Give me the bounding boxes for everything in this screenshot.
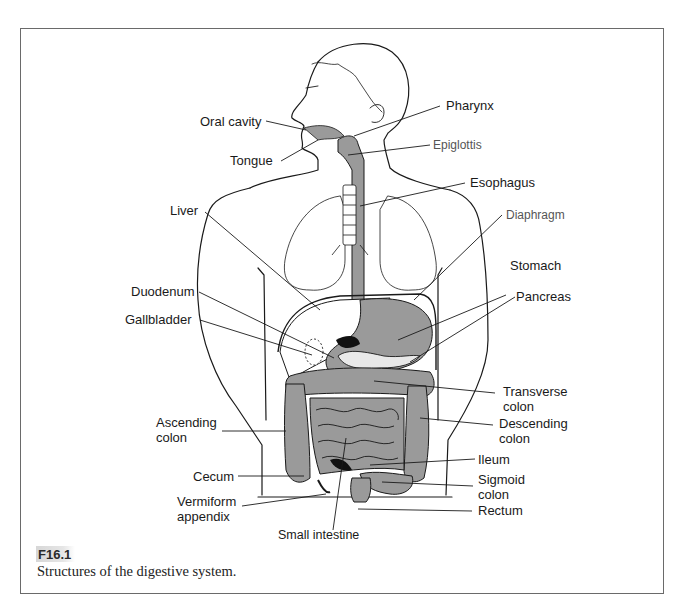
- label-pancreas: Pancreas: [516, 289, 571, 304]
- label-ileum: Ileum: [478, 452, 510, 467]
- label-epiglottis: Epiglottis: [433, 138, 482, 153]
- head-outline: [318, 44, 450, 190]
- torso-right: [446, 190, 488, 495]
- label-diaphragm: Diaphragm: [506, 208, 565, 223]
- label-oral-cavity: Oral cavity: [200, 114, 261, 129]
- label-rectum: Rectum: [478, 503, 523, 518]
- appendix: [318, 480, 330, 492]
- label-ascending-colon: Ascending colon: [156, 415, 217, 445]
- label-vermiform-appendix-text: Vermiform appendix: [177, 494, 236, 524]
- label-sigmoid-colon: Sigmoid colon: [478, 472, 525, 502]
- figure-number: F16.1: [36, 546, 75, 562]
- lung-right: [380, 196, 436, 290]
- label-esophagus: Esophagus: [470, 175, 535, 190]
- label-small-intestine: Small intestine: [278, 528, 359, 543]
- torso-left: [197, 188, 262, 495]
- label-pharynx: Pharynx: [446, 98, 494, 113]
- ascending-colon: [285, 384, 311, 482]
- label-vermiform-appendix: Vermiform appendix: [177, 494, 236, 524]
- label-duodenum: Duodenum: [131, 284, 195, 299]
- label-descending-colon-text: Descending colon: [499, 416, 568, 446]
- label-descending-colon: Descending colon: [499, 416, 568, 446]
- label-transverse-colon-text: Transverse colon: [503, 384, 568, 414]
- label-cecum: Cecum: [193, 469, 234, 484]
- label-tongue: Tongue: [230, 153, 273, 168]
- rectum: [351, 478, 371, 502]
- label-transverse-colon: Transverse colon: [503, 384, 568, 414]
- label-ascending-colon-text: Ascending colon: [156, 415, 217, 445]
- oral-cavity: [304, 126, 344, 140]
- descending-colon: [404, 386, 429, 482]
- label-sigmoid-colon-text: Sigmoid colon: [478, 472, 525, 502]
- figure-caption: Structures of the digestive system.: [37, 563, 236, 580]
- label-stomach: Stomach: [510, 258, 561, 273]
- digestive-system-illustration: [0, 0, 680, 611]
- arm-left: [258, 268, 266, 420]
- small-intestine: [310, 398, 404, 474]
- hair-detail: [312, 63, 382, 112]
- gallbladder: [305, 339, 323, 365]
- label-liver: Liver: [170, 203, 198, 218]
- label-gallbladder: Gallbladder: [125, 312, 192, 327]
- lung-left: [284, 196, 345, 290]
